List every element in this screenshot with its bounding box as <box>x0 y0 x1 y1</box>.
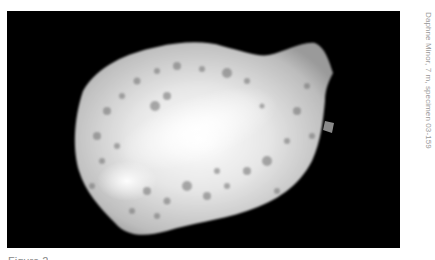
side-caption: Daphne Minor, 7 m, specimen 03-159 <box>424 12 433 149</box>
specimen-photo <box>7 11 400 248</box>
specimen-image <box>7 11 400 248</box>
figure-label: Figure 2 <box>8 255 48 260</box>
specimen-fragment <box>323 121 334 133</box>
